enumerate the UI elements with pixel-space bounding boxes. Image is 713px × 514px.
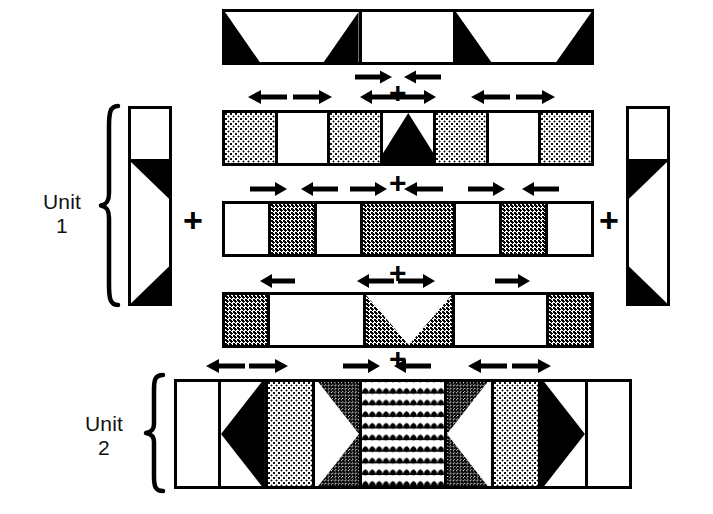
triangle-up-black-icon — [383, 113, 434, 163]
arrows-row-3 — [0, 180, 713, 198]
trapezoid-black-corners-icon — [225, 12, 359, 62]
third-band-cell-3 — [317, 204, 363, 254]
trapezoid-black-left-icon — [629, 162, 667, 303]
arrow-left — [402, 68, 442, 86]
arrow-left — [402, 180, 444, 198]
third-band — [222, 201, 594, 257]
arrow-left — [469, 88, 511, 106]
arrow-right — [342, 357, 382, 375]
triangle-right-white-icon — [315, 382, 359, 486]
right-vertical-panel — [626, 106, 670, 306]
fourth-band-cell-3 — [366, 295, 455, 345]
unit-2-cell-6 — [447, 382, 494, 486]
triangle-left-white-icon — [447, 382, 491, 486]
arrow-right — [397, 272, 437, 290]
unit-2-cell-2 — [221, 382, 268, 486]
unit-2-band — [174, 379, 632, 489]
unit-2-label: Unit 2 — [70, 412, 138, 459]
third-band-cell-7 — [548, 204, 591, 254]
second-band-cell-4 — [383, 113, 437, 163]
third-band-cell-1 — [225, 204, 271, 254]
right-panel-cell-2 — [629, 162, 667, 303]
arrow-right — [494, 272, 532, 290]
third-band-cell-2 — [271, 204, 317, 254]
unit-2-cell-9 — [588, 382, 629, 486]
arrow-right — [467, 180, 507, 198]
fourth-band-cell-1 — [225, 295, 270, 345]
arrow-left — [246, 88, 288, 106]
figure-canvas: Unit 1 Unit 2 — [0, 0, 713, 514]
arrow-left — [204, 357, 246, 375]
trapezoid-black-right-icon — [131, 162, 169, 303]
vee-white-icon — [366, 295, 452, 345]
arrow-right — [398, 88, 438, 106]
arrow-left — [520, 180, 560, 198]
right-panel-cell-1 — [629, 109, 667, 162]
second-band-cell-5 — [436, 113, 489, 163]
arrow-right — [354, 68, 394, 86]
triangle-right-black-icon — [541, 382, 585, 486]
top-band-cell-3 — [456, 12, 591, 62]
unit-2-cell-3 — [268, 382, 315, 486]
top-band — [222, 9, 594, 65]
arrows-row-4 — [0, 272, 713, 290]
arrow-right — [515, 88, 557, 106]
unit-2-cell-7 — [494, 382, 541, 486]
arrow-left — [358, 88, 398, 106]
second-band-cell-7 — [541, 113, 591, 163]
fourth-band — [222, 292, 594, 348]
top-band-cell-1 — [225, 12, 362, 62]
unit-2-label-line1: Unit — [70, 412, 138, 436]
arrow-right — [292, 88, 334, 106]
arrows-unit-2 — [0, 357, 713, 375]
fourth-band-cell-2 — [270, 295, 366, 345]
unit-2-cell-1 — [177, 382, 221, 486]
second-band — [222, 110, 594, 166]
arrow-right — [511, 357, 553, 375]
second-band-cell-6 — [489, 113, 542, 163]
arrow-right — [248, 357, 290, 375]
unit-2-cell-5 — [362, 382, 447, 486]
second-band-cell-3 — [330, 113, 383, 163]
plus-right-join: + — [599, 203, 619, 237]
arrow-left — [355, 272, 395, 290]
unit-2-cell-4 — [315, 382, 362, 486]
arrow-left — [299, 180, 339, 198]
arrow-left — [466, 357, 508, 375]
second-band-cell-2 — [278, 113, 331, 163]
arrow-right — [349, 180, 389, 198]
left-panel-cell-2 — [131, 162, 169, 303]
unit-2-label-line2: 2 — [70, 436, 138, 460]
triangle-left-black-icon — [221, 382, 265, 486]
third-band-cell-4 — [363, 204, 456, 254]
fourth-band-cell-4 — [455, 295, 549, 345]
arrows-row-2 — [0, 88, 713, 106]
fish-scale-pattern-icon — [362, 382, 444, 486]
arrow-right — [249, 180, 289, 198]
top-band-cell-2 — [362, 12, 456, 62]
third-band-cell-5 — [456, 204, 502, 254]
arrow-left — [392, 357, 432, 375]
unit-2-cell-8 — [541, 382, 588, 486]
second-band-cell-1 — [225, 113, 278, 163]
arrow-left — [258, 272, 296, 290]
unit-1-label-line2: 1 — [28, 214, 96, 238]
arrows-under-top-band — [0, 68, 713, 86]
brace-unit-2 — [143, 372, 167, 494]
third-band-cell-6 — [502, 204, 548, 254]
plus-left-join: + — [183, 203, 203, 237]
left-vertical-panel — [128, 106, 172, 306]
fourth-band-cell-5 — [549, 295, 591, 345]
left-panel-cell-1 — [131, 109, 169, 162]
trapezoid-black-corners-icon — [456, 12, 591, 62]
